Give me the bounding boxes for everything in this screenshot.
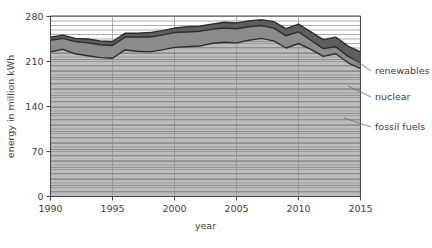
area-fossil-fuels — [51, 38, 361, 196]
x-tick-label: 2010 — [286, 203, 310, 214]
x-tick-label: 2015 — [348, 203, 372, 214]
y-axis-title: energy in million kWh — [5, 55, 16, 158]
legend-label-nuclear: nuclear — [375, 91, 411, 102]
x-axis-title: year — [195, 220, 216, 231]
y-tick-label: 70 — [31, 146, 43, 157]
legend-label-fossil-fuels: fossil fuels — [375, 121, 425, 132]
x-tick-label: 1995 — [100, 203, 124, 214]
x-tick-label: 2005 — [224, 203, 248, 214]
y-tick-label: 0 — [37, 191, 43, 202]
stacked-area-chart: 070140210280199019952000200520102015year… — [0, 0, 432, 248]
legend-label-renewables: renewables — [375, 65, 430, 76]
y-tick-label: 210 — [25, 56, 43, 67]
chart-canvas: 070140210280199019952000200520102015year… — [0, 0, 432, 248]
y-tick-label: 280 — [25, 11, 43, 22]
x-tick-label: 2000 — [162, 203, 186, 214]
x-tick-label: 1990 — [38, 203, 62, 214]
y-tick-label: 140 — [25, 101, 43, 112]
